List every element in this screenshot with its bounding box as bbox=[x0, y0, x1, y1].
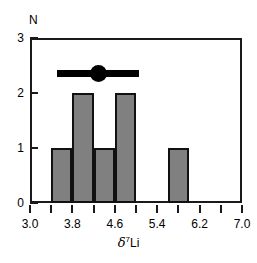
x-axis-label: δ7Li bbox=[0, 236, 257, 250]
x-tick-mark bbox=[29, 205, 31, 213]
element-symbol: Li bbox=[130, 236, 139, 250]
x-minor-tick-mark bbox=[93, 205, 95, 213]
x-tick-mark bbox=[199, 205, 201, 213]
plot-area bbox=[30, 38, 242, 203]
x-tick-mark bbox=[156, 205, 158, 213]
x-tick-label: 7.0 bbox=[222, 218, 257, 230]
x-tick-label: 3.0 bbox=[10, 218, 50, 230]
y-tick-label: 0 bbox=[4, 197, 24, 209]
histogram-figure: N 0123 3.03.84.65.46.27.0 δ7Li bbox=[0, 0, 257, 263]
x-tick-mark bbox=[241, 205, 243, 213]
x-tick-label: 3.8 bbox=[52, 218, 92, 230]
y-tick-mark bbox=[30, 92, 38, 94]
x-tick-mark bbox=[71, 205, 73, 213]
x-tick-mark bbox=[114, 205, 116, 213]
x-tick-label: 5.4 bbox=[137, 218, 177, 230]
y-tick-mark bbox=[30, 147, 38, 149]
mean-point-marker bbox=[90, 65, 107, 82]
histogram-bar bbox=[51, 148, 72, 203]
histogram-bar bbox=[94, 148, 115, 203]
y-tick-label: 1 bbox=[4, 142, 24, 154]
x-minor-tick-mark bbox=[135, 205, 137, 213]
x-minor-tick-mark bbox=[177, 205, 179, 213]
y-tick-mark bbox=[30, 202, 38, 204]
delta-symbol: δ bbox=[118, 235, 126, 250]
y-tick-label: 3 bbox=[4, 32, 24, 44]
histogram-bar bbox=[115, 93, 136, 203]
histogram-bar bbox=[72, 93, 93, 203]
y-axis-label: N bbox=[29, 14, 38, 26]
x-tick-label: 6.2 bbox=[180, 218, 220, 230]
y-tick-mark bbox=[30, 37, 38, 39]
histogram-bar bbox=[168, 148, 189, 203]
y-tick-label: 2 bbox=[4, 87, 24, 99]
x-minor-tick-mark bbox=[220, 205, 222, 213]
x-tick-label: 4.6 bbox=[95, 218, 135, 230]
x-minor-tick-mark bbox=[50, 205, 52, 213]
